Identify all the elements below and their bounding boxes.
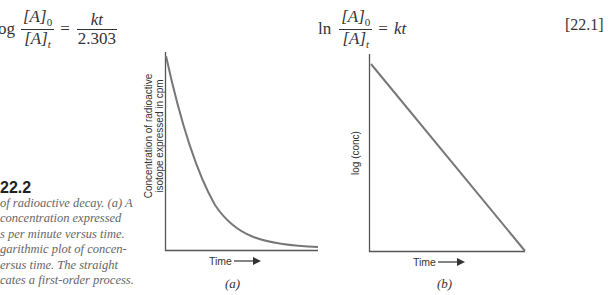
arrow-right-icon [234,256,262,266]
chart-a-plot [0,0,612,295]
chart-b-log-line [371,64,525,251]
chart-a-panel-label: (a) [225,276,240,292]
chart-b-xlabel: Time [413,256,466,268]
chart-a-decay-curve [166,56,318,247]
chart-a-ylabel: Concentration of radioactive isotope exp… [143,56,165,216]
chart-b-panel-label: (b) [437,276,452,292]
arrow-right-icon [438,257,466,267]
chart-b-xlabel-text: Time [413,256,436,268]
chart-a-ylabel-line1: Concentration of radioactive [143,56,154,216]
chart-a-ylabel-line2: isotope expressed in cpm [154,56,165,216]
chart-a-axes [165,52,318,251]
chart-b-ylabel: log (conc) [350,118,361,188]
chart-a-xlabel: Time [209,255,262,267]
chart-a-xlabel-text: Time [209,255,232,267]
